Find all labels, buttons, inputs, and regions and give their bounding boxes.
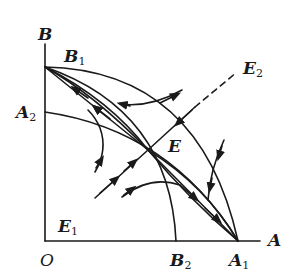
point-label-a2: A2 (16, 104, 36, 123)
trajectory-left (88, 110, 103, 172)
point-label-b1: B1 (64, 48, 85, 67)
point-label-b2: B2 (170, 252, 191, 271)
point-label-a1: A1 (229, 252, 249, 271)
separatrix-dashed (195, 72, 237, 107)
point-label-e1: E1 (58, 218, 78, 237)
point-label-e2: E2 (243, 60, 263, 79)
point-label-e: E (168, 138, 181, 155)
origin-label: O (40, 252, 54, 269)
axis-label-b: B (38, 26, 52, 43)
axis-label-a: A (268, 232, 281, 249)
